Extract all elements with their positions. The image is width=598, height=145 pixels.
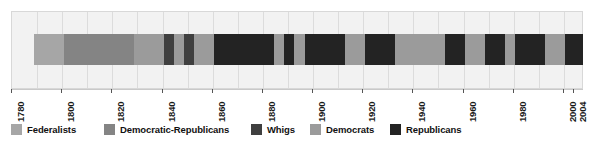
timeline-segment (164, 34, 174, 65)
legend-swatch-icon (310, 124, 321, 135)
legend-swatch-icon (251, 124, 262, 135)
timeline-segment (184, 34, 194, 65)
legend-label: Whigs (267, 124, 295, 135)
x-axis-label-1960: 1960 (467, 102, 478, 122)
party-control-band (11, 34, 583, 65)
legend-label: Democratic-Republicans (120, 124, 229, 135)
x-axis-tick-1840 (162, 89, 163, 93)
x-axis-label-1980: 1980 (517, 102, 528, 122)
timeline-segment (485, 34, 505, 65)
legend-label: Republicans (406, 124, 461, 135)
legend-item-republicans[interactable]: Republicans (390, 122, 461, 136)
timeline-segment (194, 34, 214, 65)
x-axis-tick-2000 (563, 89, 564, 93)
x-axis-tick-1960 (463, 89, 464, 93)
legend-label: Federalists (27, 124, 76, 135)
timeline-segment (345, 34, 365, 65)
timeline-segment (305, 34, 345, 65)
legend-swatch-icon (104, 124, 115, 135)
timeline-segment (64, 34, 134, 65)
legend-swatch-icon (11, 124, 22, 135)
legend-swatch-icon (390, 124, 401, 135)
timeline-segment (445, 34, 465, 65)
x-axis-label-1920: 1920 (366, 102, 377, 122)
x-axis-tick-1980 (513, 89, 514, 93)
x-axis-label-1780: 1780 (15, 102, 26, 122)
x-axis-label-1800: 1800 (65, 102, 76, 122)
timeline-segment (565, 34, 583, 65)
x-axis-tick-1800 (61, 89, 62, 93)
x-axis-tick-1880 (262, 89, 263, 93)
x-axis-line (11, 89, 583, 90)
timeline-segment (515, 34, 545, 65)
x-axis-tick-1940 (412, 89, 413, 93)
timeline-segment (174, 34, 184, 65)
timeline-segment (505, 34, 515, 65)
x-axis-label-1820: 1820 (115, 102, 126, 122)
legend-item-democrats[interactable]: Democrats (310, 122, 374, 136)
timeline-segment (294, 34, 304, 65)
legend-item-whigs[interactable]: Whigs (251, 122, 295, 136)
x-axis-label-1840: 1840 (166, 102, 177, 122)
x-axis-label-1860: 1860 (216, 102, 227, 122)
x-axis-tick-1820 (111, 89, 112, 93)
x-axis-label-1880: 1880 (266, 102, 277, 122)
legend-label: Democrats (326, 124, 374, 135)
party-control-timeline-chart: 1780180018201840186018801900192019401960… (0, 0, 598, 145)
x-axis-tick-1860 (212, 89, 213, 93)
x-axis-label-1940: 1940 (416, 102, 427, 122)
x-axis-tick-2004 (573, 89, 574, 93)
timeline-segment (274, 34, 284, 65)
timeline-segment (545, 34, 565, 65)
x-axis-label-2004: 2004 (577, 102, 588, 122)
legend-item-federalists[interactable]: Federalists (11, 122, 76, 136)
timeline-segment (34, 34, 64, 65)
x-axis-tick-1920 (362, 89, 363, 93)
timeline-segment (395, 34, 445, 65)
x-axis-tick-1900 (312, 89, 313, 93)
timeline-segment (134, 34, 164, 65)
timeline-segment (365, 34, 395, 65)
x-axis-tick-1780 (11, 89, 12, 93)
timeline-segment (465, 34, 485, 65)
x-axis-label-1900: 1900 (316, 102, 327, 122)
legend-item-democratic-republicans[interactable]: Democratic-Republicans (104, 122, 229, 136)
timeline-segment (214, 34, 274, 65)
timeline-segment (284, 34, 294, 65)
